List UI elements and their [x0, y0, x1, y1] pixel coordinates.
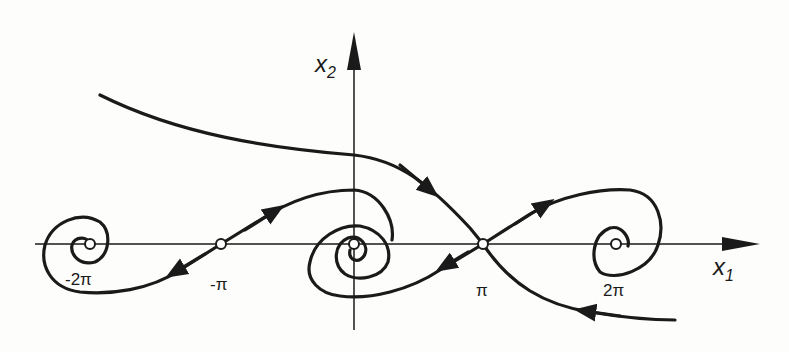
separatrix-negpi-to-origin — [221, 190, 392, 244]
tick-label-pi: π — [476, 281, 488, 301]
x2-axis-arrow-icon — [347, 32, 361, 70]
phase-portrait-svg — [0, 0, 789, 352]
equilibrium-2pi — [611, 239, 621, 249]
x1-axis-label: x1 — [713, 253, 734, 285]
trajectory-top-incoming — [100, 95, 483, 244]
x2-axis — [347, 32, 361, 330]
separatrix-pi-to-origin — [309, 226, 483, 297]
equilibrium-pi — [478, 239, 488, 249]
equilibrium-origin — [349, 239, 359, 249]
separatrix-pi-to-2pi — [483, 190, 661, 276]
tick-label-neg-pi: -π — [210, 275, 227, 295]
equilibrium-neg-pi — [216, 239, 226, 249]
tick-label-2pi: 2π — [603, 281, 624, 301]
trajectory-bottom-incoming — [483, 244, 675, 320]
x1-axis — [35, 237, 760, 251]
phase-portrait-diagram: x2 x1 -2π -π π 2π — [0, 0, 789, 352]
x1-axis-arrow-icon — [722, 237, 760, 251]
equilibrium-neg-2pi — [85, 239, 95, 249]
x2-axis-label: x2 — [315, 50, 336, 82]
tick-label-neg-2pi: -2π — [65, 270, 92, 290]
